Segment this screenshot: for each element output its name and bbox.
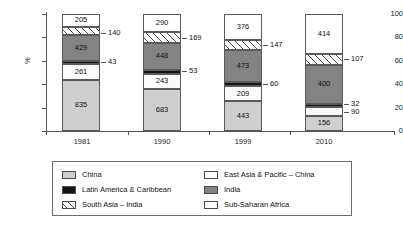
legend-item-south-asia-minus-india[interactable]: South Asia – India <box>53 200 204 209</box>
legend-item-latam[interactable]: Latin America & Caribbean <box>53 185 204 194</box>
callout-value: 140 <box>108 28 121 37</box>
legend-row: Latin America & Caribbean India <box>53 182 351 197</box>
chart-legend: China East Asia & Pacific – China Latin … <box>52 161 352 216</box>
segment-china[interactable]: 835 <box>62 80 100 131</box>
legend-item-india[interactable]: India <box>204 185 351 194</box>
x-tick-mark-0 <box>46 131 47 135</box>
segment-eap-minus-china[interactable]: 261 <box>62 64 100 80</box>
segment-eap-minus-china[interactable] <box>305 107 343 116</box>
segment-value: 205 <box>63 16 99 24</box>
x-tick-mark-4 <box>394 131 395 135</box>
bar-group-1990[interactable]: 290 448 243 683 <box>143 14 181 131</box>
y-tick-mark-60 <box>42 61 46 62</box>
y-axis-title: % <box>24 57 32 64</box>
segment-ssa[interactable]: 376 <box>224 14 262 40</box>
segment-south-asia-minus-india[interactable] <box>62 27 100 36</box>
segment-ssa[interactable]: 290 <box>143 14 181 32</box>
y-tick-mark-40 <box>42 84 46 85</box>
segment-value: 443 <box>225 112 261 120</box>
legend-label: India <box>224 185 240 194</box>
callout-value: 107 <box>351 54 364 63</box>
y-tick-label-100: 100 <box>379 10 403 18</box>
callout-south-asia-1990: 169 <box>182 34 202 42</box>
callout-latam-1990: 53 <box>182 67 197 75</box>
swatch-ssa-icon <box>204 201 218 209</box>
leader-line <box>344 112 349 113</box>
leader-line <box>263 45 268 46</box>
segment-china[interactable]: 443 <box>224 101 262 131</box>
segment-india[interactable]: 429 <box>62 35 100 61</box>
segment-value: 290 <box>144 19 180 27</box>
callout-value: 147 <box>270 40 283 49</box>
swatch-south-asia-icon <box>62 201 76 209</box>
callout-value: 43 <box>108 57 116 66</box>
x-tick-label-1981: 1981 <box>52 137 112 146</box>
legend-row: South Asia – India Sub-Saharan Africa <box>53 197 351 212</box>
legend-item-ssa[interactable]: Sub-Saharan Africa <box>204 200 351 209</box>
callout-south-asia-1981: 140 <box>101 29 121 37</box>
x-tick-label-1990: 1990 <box>132 137 192 146</box>
y-tick-mark-20 <box>42 108 46 109</box>
segment-china[interactable]: 683 <box>143 89 181 131</box>
swatch-india-icon <box>204 186 218 194</box>
segment-ssa[interactable]: 205 <box>62 14 100 27</box>
y-axis-line <box>46 12 47 132</box>
y-tick-mark-100 <box>42 14 46 15</box>
legend-label: Sub-Saharan Africa <box>224 200 289 209</box>
leader-line <box>101 62 106 63</box>
leader-line <box>182 71 187 72</box>
x-tick-mark-1 <box>128 131 129 135</box>
legend-label: East Asia & Pacific – China <box>224 170 314 179</box>
legend-label: South Asia – India <box>82 200 142 209</box>
segment-south-asia-minus-india[interactable] <box>143 32 181 43</box>
callout-south-asia-2010: 107 <box>344 55 364 63</box>
x-tick-mark-2 <box>209 131 210 135</box>
bar-group-1981[interactable]: 205 429 261 835 <box>62 14 100 131</box>
legend-row: China East Asia & Pacific – China <box>53 167 351 182</box>
stacked-bar-chart: % 100 80 60 40 20 0 1981 1990 1999 2010 … <box>0 0 403 230</box>
segment-value: 243 <box>144 77 180 85</box>
swatch-latam-icon <box>62 186 76 194</box>
segment-value: 448 <box>144 52 180 60</box>
segment-eap-minus-china[interactable]: 209 <box>224 86 262 100</box>
y-tick-label-40: 40 <box>379 80 403 88</box>
callout-eap-2010: 90 <box>344 108 359 116</box>
segment-south-asia-minus-india[interactable] <box>224 40 262 50</box>
segment-value: 209 <box>225 90 261 98</box>
bar-group-1999[interactable]: 376 473 209 443 <box>224 14 262 131</box>
segment-value: 414 <box>306 30 342 38</box>
segment-eap-minus-china[interactable]: 243 <box>143 74 181 89</box>
leader-line <box>101 33 106 34</box>
y-tick-label-80: 80 <box>379 33 403 41</box>
bar-group-2010[interactable]: 414 400 156 <box>305 14 343 131</box>
x-tick-label-1999: 1999 <box>213 137 273 146</box>
segment-south-asia-minus-india[interactable] <box>305 54 343 64</box>
leader-line <box>344 59 349 60</box>
segment-india[interactable]: 400 <box>305 65 343 104</box>
segment-ssa[interactable]: 414 <box>305 14 343 54</box>
segment-india[interactable]: 473 <box>224 50 262 82</box>
legend-item-eap-minus-china[interactable]: East Asia & Pacific – China <box>204 170 351 179</box>
y-tick-label-20: 20 <box>379 104 403 112</box>
segment-value: 473 <box>225 62 261 70</box>
segment-value: 429 <box>63 44 99 52</box>
callout-latam-1981: 43 <box>101 58 116 66</box>
legend-item-china[interactable]: China <box>53 170 204 179</box>
swatch-china-icon <box>62 171 76 179</box>
legend-label: China <box>82 170 102 179</box>
leader-line <box>263 84 268 85</box>
leader-line <box>344 104 349 105</box>
legend-label: Latin America & Caribbean <box>82 185 171 194</box>
segment-value: 156 <box>306 119 342 127</box>
callout-latam-1999: 60 <box>263 80 278 88</box>
callout-value: 169 <box>189 33 202 42</box>
segment-india[interactable]: 448 <box>143 43 181 71</box>
segment-value: 400 <box>306 80 342 88</box>
callout-value: 60 <box>270 79 278 88</box>
leader-line <box>182 38 187 39</box>
segment-value: 261 <box>63 68 99 76</box>
callout-south-asia-1999: 147 <box>263 41 283 49</box>
swatch-eap-icon <box>204 171 218 179</box>
x-tick-label-2010: 2010 <box>294 137 354 146</box>
segment-china[interactable]: 156 <box>305 116 343 131</box>
